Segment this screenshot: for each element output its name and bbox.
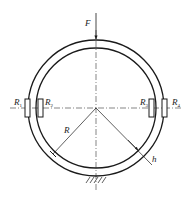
gauge-label-r2: R2 xyxy=(44,97,54,108)
force-label: F xyxy=(84,18,91,28)
gauge-r3 xyxy=(149,99,154,117)
gauge-r4 xyxy=(162,99,167,117)
gauge-label-r1: R1 xyxy=(13,97,23,108)
gauge-label-r4: R4 xyxy=(171,97,181,108)
thickness-line xyxy=(96,108,152,165)
radius-label: R xyxy=(63,125,70,135)
radius-line xyxy=(53,108,96,154)
ring-diagram: F R1 R2 R3 R4 R h xyxy=(0,0,192,200)
thickness-label: h xyxy=(152,154,157,164)
gauge-r2 xyxy=(38,99,43,117)
thickness-arrow xyxy=(128,140,138,150)
gauge-r1 xyxy=(25,99,30,117)
gauge-label-r3: R3 xyxy=(139,97,149,108)
